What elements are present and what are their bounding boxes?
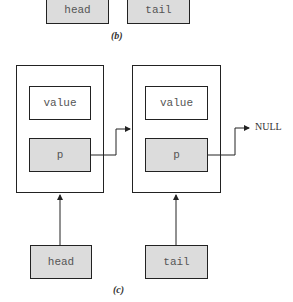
next-pointer-arrow	[91, 129, 130, 155]
connector-arrows	[0, 0, 293, 302]
null-pointer-arrow	[208, 128, 249, 155]
